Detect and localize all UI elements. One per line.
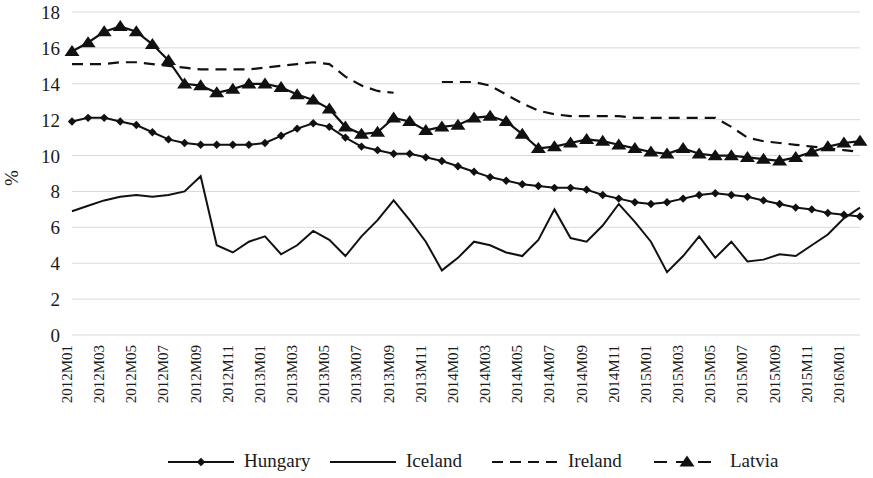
legend-label: Iceland (406, 450, 462, 471)
gridlines-group (72, 12, 860, 335)
data-point-marker (579, 133, 594, 144)
x-tick-label: 2013M09 (381, 345, 397, 403)
legend-marker-diamond (197, 458, 205, 466)
data-point-marker (791, 203, 799, 211)
series-line-iceland (72, 176, 860, 272)
y-axis-label: % (1, 170, 22, 186)
x-tick-label: 2015M05 (702, 345, 718, 403)
data-point-marker (229, 141, 237, 149)
data-point-marker (727, 191, 735, 199)
y-tick-label: 8 (51, 181, 61, 202)
plot-series-group (65, 20, 868, 272)
y-tick-label: 10 (41, 146, 60, 167)
data-point-marker (550, 184, 558, 192)
x-tick-label: 2015M11 (799, 345, 815, 403)
data-point-marker (534, 182, 542, 190)
x-tick-label: 2012M01 (59, 345, 75, 403)
x-tick-label: 2015M07 (734, 345, 750, 404)
x-tick-label: 2012M11 (220, 345, 236, 403)
data-point-marker (422, 153, 430, 161)
y-tick-label: 6 (51, 217, 61, 238)
data-point-marker (775, 200, 783, 208)
y-tick-label: 18 (41, 2, 60, 23)
data-point-marker (68, 117, 76, 125)
data-point-marker (676, 142, 691, 153)
data-point-marker (148, 128, 156, 136)
data-point-marker (743, 193, 751, 201)
data-point-marker (113, 20, 128, 31)
data-point-marker (164, 135, 172, 143)
data-point-marker (486, 173, 494, 181)
data-point-marker (450, 119, 465, 130)
data-point-marker (309, 119, 317, 127)
data-point-marker (856, 212, 864, 220)
data-point-marker (322, 103, 337, 114)
data-point-marker (470, 168, 478, 176)
data-point-marker (357, 142, 365, 150)
data-point-marker (196, 141, 204, 149)
data-point-marker (290, 88, 305, 99)
y-tick-label: 4 (51, 253, 61, 274)
data-point-marker (647, 200, 655, 208)
x-tick-label: 2014M01 (445, 345, 461, 403)
x-tick-label: 2016M01 (831, 345, 847, 403)
data-point-marker (277, 132, 285, 140)
series-ireland (72, 62, 860, 152)
data-point-marker (663, 198, 671, 206)
x-axis-tick-labels: 2012M012012M032012M052012M072012M092012M… (59, 345, 847, 404)
data-point-marker (261, 139, 269, 147)
legend-item-iceland: Iceland (330, 450, 462, 471)
data-point-marker (695, 191, 703, 199)
x-tick-label: 2014M03 (477, 345, 493, 403)
data-point-marker (483, 110, 498, 121)
unemployment-rate-line-chart: 024681012141618 2012M012012M032012M05201… (0, 0, 873, 478)
y-axis-tick-labels: 024681012141618 (41, 2, 61, 346)
data-point-marker (679, 194, 687, 202)
x-tick-label: 2012M09 (188, 345, 204, 403)
x-tick-label: 2013M03 (284, 345, 300, 403)
data-point-marker (406, 150, 414, 158)
x-tick-label: 2012M05 (123, 345, 139, 403)
x-tick-label: 2014M07 (541, 345, 557, 404)
x-tick-label: 2013M05 (316, 345, 332, 403)
data-point-marker (598, 191, 606, 199)
data-point-marker (293, 124, 301, 132)
legend-item-latvia: Latvia (654, 450, 779, 471)
data-point-marker (177, 77, 192, 88)
data-point-marker (132, 121, 140, 129)
legend-item-hungary: Hungary (168, 450, 311, 471)
data-point-marker (853, 135, 868, 146)
data-point-marker (373, 146, 381, 154)
x-tick-label: 2013M07 (348, 345, 364, 404)
x-tick-label: 2015M09 (767, 345, 783, 403)
data-point-marker (711, 189, 719, 197)
data-point-marker (438, 157, 446, 165)
y-tick-label: 14 (41, 74, 61, 95)
x-tick-label: 2012M07 (155, 345, 171, 404)
data-point-marker (502, 176, 510, 184)
y-tick-label: 12 (41, 110, 60, 131)
data-point-marker (386, 111, 401, 122)
series-line-latvia (72, 26, 860, 161)
x-tick-label: 2014M05 (509, 345, 525, 403)
legend-label: Ireland (568, 450, 622, 471)
data-point-marker (808, 205, 816, 213)
data-point-marker (518, 180, 526, 188)
data-point-marker (759, 196, 767, 204)
x-tick-label: 2015M03 (670, 345, 686, 403)
data-point-marker (389, 150, 397, 158)
series-hungary (68, 114, 864, 221)
y-tick-label: 2 (51, 289, 61, 310)
data-point-marker (454, 162, 462, 170)
data-point-marker (582, 185, 590, 193)
data-point-marker (116, 117, 124, 125)
x-tick-label: 2013M01 (252, 345, 268, 403)
data-point-marker (180, 139, 188, 147)
data-point-marker (65, 45, 80, 56)
x-tick-label: 2015M01 (638, 345, 654, 403)
legend-item-ireland: Ireland (492, 450, 622, 471)
data-point-marker (566, 184, 574, 192)
data-point-marker (824, 209, 832, 217)
data-point-marker (213, 141, 221, 149)
chart-legend: HungaryIcelandIrelandLatvia (168, 450, 779, 471)
